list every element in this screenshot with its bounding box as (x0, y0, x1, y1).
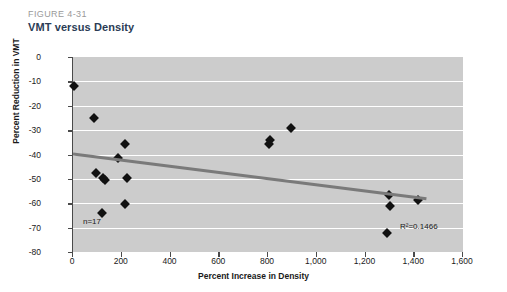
x-tick-mark (267, 252, 268, 257)
x-tick-label: 800 (245, 257, 289, 266)
y-tick-label: -40 (1, 151, 41, 159)
y-tick-mark (68, 228, 72, 229)
y-tick-label: -50 (1, 175, 41, 183)
x-tick-mark (218, 252, 219, 257)
y-tick-mark (68, 57, 72, 58)
y-tick-mark (68, 106, 72, 107)
plot-area: n=17 R²=0.1466 (72, 57, 463, 253)
y-tick-label: -20 (1, 102, 41, 110)
x-tick-label: 0 (50, 257, 94, 266)
x-tick-mark (121, 252, 122, 257)
trendline (73, 154, 426, 199)
x-tick-mark (462, 252, 463, 257)
annotation-sample-size: n=17 (83, 217, 101, 226)
annotation-r-squared: R²=0.1466 (400, 222, 438, 231)
y-axis-label: Percent Reduction in VMT (11, 11, 21, 171)
x-tick-label: 200 (99, 257, 143, 266)
y-tick-label: -30 (1, 126, 41, 134)
x-axis-label: Percent Increase in Density (0, 271, 507, 281)
x-tick-label: 1,600 (440, 257, 484, 266)
x-tick-mark (365, 252, 366, 257)
x-tick-label: 1,200 (343, 257, 387, 266)
y-tick-mark (68, 130, 72, 131)
y-tick-label: -60 (1, 199, 41, 207)
y-tick-mark (68, 81, 72, 82)
figure-number: FIGURE 4-31 (28, 9, 134, 20)
y-tick-label: 0 (1, 53, 41, 61)
x-tick-label: 1,400 (391, 257, 435, 266)
x-tick-label: 1,000 (294, 257, 338, 266)
x-tick-mark (413, 252, 414, 257)
figure-title: VMT versus Density (28, 21, 134, 34)
x-tick-mark (72, 252, 73, 257)
figure-container: FIGURE 4-31 VMT versus Density Percent R… (0, 0, 507, 292)
y-tick-mark (68, 179, 72, 180)
y-tick-mark (68, 155, 72, 156)
y-tick-mark (68, 203, 72, 204)
y-tick-label: -10 (1, 77, 41, 85)
figure-header: FIGURE 4-31 VMT versus Density (28, 9, 134, 34)
x-tick-label: 600 (196, 257, 240, 266)
x-tick-mark (316, 252, 317, 257)
x-tick-mark (170, 252, 171, 257)
x-tick-label: 400 (148, 257, 192, 266)
y-tick-label: -80 (1, 248, 41, 256)
y-tick-label: -70 (1, 224, 41, 232)
